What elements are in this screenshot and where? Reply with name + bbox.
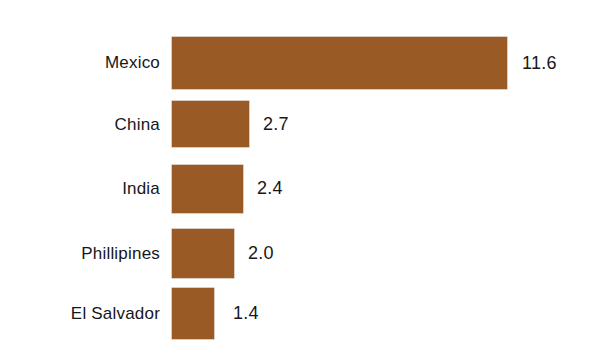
bar-phillipines (172, 229, 234, 278)
bar-china (172, 101, 249, 147)
bar-mexico (172, 37, 507, 89)
category-label-india: India (122, 180, 160, 197)
value-label-phillipines: 2.0 (248, 244, 274, 262)
bar-el-salvador (172, 288, 214, 339)
category-label-phillipines: Phillipines (81, 245, 160, 262)
category-label-el-salvador: El Salvador (71, 305, 160, 322)
category-label-china: China (115, 116, 160, 133)
bar-india (172, 165, 243, 213)
value-label-mexico: 11.6 (522, 54, 557, 72)
value-label-india: 2.4 (257, 179, 283, 197)
value-label-china: 2.7 (263, 115, 289, 133)
bar-chart: Mexico 11.6 China 2.7 India 2.4 Phillipi… (0, 0, 602, 362)
category-label-mexico: Mexico (105, 54, 160, 71)
value-label-el-salvador: 1.4 (233, 304, 259, 322)
